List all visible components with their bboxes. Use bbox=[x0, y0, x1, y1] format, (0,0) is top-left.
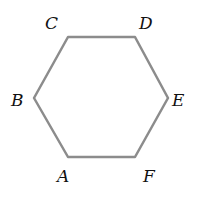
vertex-label-a: A bbox=[55, 166, 69, 186]
vertex-label-e: E bbox=[171, 90, 185, 110]
vertex-label-c: C bbox=[45, 13, 58, 33]
hexagon-shape bbox=[34, 37, 168, 157]
vertex-label-f: F bbox=[142, 166, 156, 186]
hexagon-diagram: A B C D E F bbox=[0, 0, 200, 198]
vertex-label-d: D bbox=[138, 13, 153, 33]
vertex-label-b: B bbox=[10, 90, 24, 110]
